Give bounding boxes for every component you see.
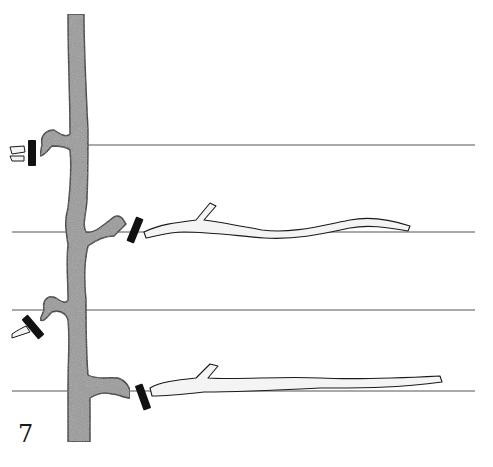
stub-upper-left xyxy=(10,146,25,161)
cut-mark-2 xyxy=(126,216,143,243)
stub-lower-left xyxy=(12,326,30,338)
figure-number: 7 xyxy=(18,420,33,448)
cut-mark-1 xyxy=(28,140,36,166)
cut-stubs xyxy=(10,146,30,338)
trunk xyxy=(40,14,130,442)
cane-upper xyxy=(144,203,410,238)
pruning-diagram xyxy=(0,0,493,467)
cut-mark-4 xyxy=(135,383,151,410)
